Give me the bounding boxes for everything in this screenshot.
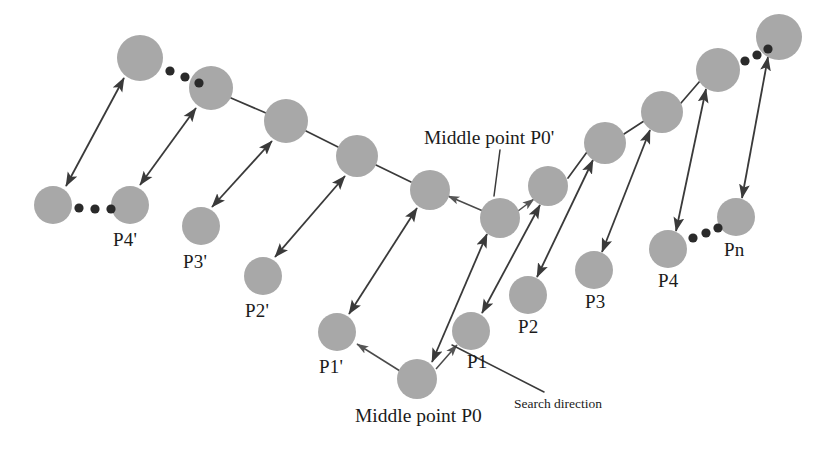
label-p3: P3	[585, 292, 605, 311]
node-p1-prime	[318, 313, 356, 351]
ellipsis-lower-left	[74, 203, 115, 213]
node-upper-11	[756, 14, 802, 60]
label-p2-prime: P2'	[245, 301, 269, 320]
link-u3-u4	[306, 131, 338, 147]
node-p1	[452, 312, 490, 350]
node-p3	[575, 251, 613, 289]
node-p0	[397, 359, 437, 399]
node-upper-5	[410, 170, 450, 210]
leader-p0prime	[494, 150, 500, 196]
node-upper-2	[189, 66, 233, 110]
node-pn	[717, 198, 755, 236]
node-p2-prime	[244, 257, 282, 295]
node-upper-9	[641, 91, 683, 133]
pair-arrow-p2prime	[275, 176, 345, 257]
label-p2: P2	[518, 317, 538, 336]
label-middle-point-p0-prime: Middle point P0'	[424, 128, 554, 148]
search-arrow-p0prime-right	[518, 199, 534, 211]
node-p3-prime	[182, 207, 220, 245]
node-p2	[509, 276, 547, 314]
pair-arrow-p1prime	[349, 208, 417, 314]
node-upper-7	[528, 166, 568, 206]
node-upper-8	[584, 122, 626, 164]
link-u9-u10	[681, 81, 700, 103]
label-p1-prime: P1'	[319, 357, 343, 376]
search-arrow-p0-left	[357, 344, 400, 371]
label-p1: P1	[467, 352, 487, 371]
diagram-graphics	[0, 0, 835, 451]
nodes-lower-left	[34, 186, 437, 399]
link-u4-u5	[376, 165, 411, 182]
link-u8-u9	[624, 121, 644, 134]
link-u7-u8	[568, 152, 587, 178]
label-p3-prime: P3'	[183, 252, 207, 271]
label-pn: Pn	[724, 240, 744, 259]
leader-search-direction	[452, 345, 544, 392]
diagram-canvas: Middle point P0' Middle point P0 Search …	[0, 0, 835, 451]
pair-arrow-p4prime	[140, 108, 196, 185]
label-search-direction: Search direction	[514, 397, 602, 411]
label-middle-point-p0: Middle point P0	[355, 406, 482, 426]
ellipsis-lower-right	[688, 223, 722, 242]
nodes-upper-chain	[117, 14, 802, 238]
node-p4	[649, 230, 687, 268]
search-arrow-p0-right	[436, 345, 457, 369]
pair-arrow-pn	[742, 57, 768, 198]
pair-arrow-far-left	[66, 78, 124, 186]
node-p0-prime	[480, 198, 520, 238]
node-p4-prime	[111, 186, 149, 224]
pair-arrows-right	[482, 57, 768, 313]
label-p4-prime: P4'	[113, 230, 137, 249]
node-upper-10	[696, 48, 740, 92]
label-p4: P4	[658, 271, 678, 290]
node-upper-3	[264, 99, 308, 143]
pair-arrow-p3prime	[212, 141, 272, 207]
node-p0-prime-far	[34, 186, 72, 224]
node-upper-far-left	[117, 35, 163, 81]
node-upper-4	[336, 135, 378, 177]
link-u2-u3	[231, 98, 266, 113]
search-arrow-p0prime-left	[448, 196, 483, 211]
